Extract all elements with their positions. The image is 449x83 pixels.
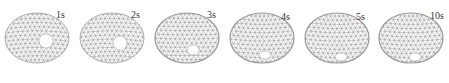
time-label: 1s [56, 10, 65, 20]
hole-region [335, 53, 347, 61]
mesh-frame-4: 4s [225, 0, 300, 83]
hole-region [259, 51, 271, 59]
time-label: 3s [207, 10, 216, 20]
time-label: 4s [281, 12, 290, 22]
time-label: 2s [131, 10, 140, 20]
time-label: 5s [356, 12, 365, 22]
mesh-sequence-figure: 1s 2s 3s 4s 5s 10s [0, 0, 449, 83]
hole-region [113, 36, 127, 50]
mesh-frame-3: 3s [150, 0, 225, 83]
mesh-frame-1: 1s [0, 0, 75, 83]
time-label: 10s [430, 11, 444, 21]
hole-region [409, 53, 421, 61]
hole-region [39, 34, 53, 48]
mesh-frame-2: 2s [75, 0, 150, 83]
mesh-frame-5: 5s [300, 0, 375, 83]
mesh-frame-6: 10s [374, 0, 449, 83]
hole-region [187, 45, 199, 55]
